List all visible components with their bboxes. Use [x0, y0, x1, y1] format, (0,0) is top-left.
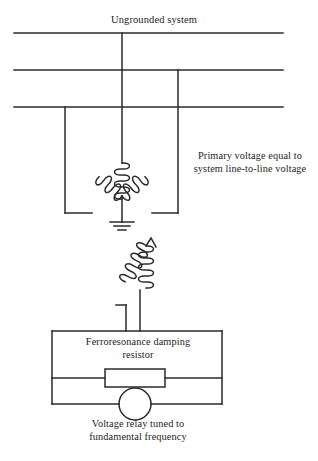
damping-resistor-body [105, 369, 165, 387]
secondary-coil-left [118, 241, 151, 285]
schematic-drawing [0, 0, 318, 461]
primary-voltage-label: Primary voltage equal to system line-to-… [186, 150, 314, 175]
diagram-canvas: Ungrounded system Primary voltage equal … [0, 0, 318, 461]
title-label: Ungrounded system [59, 14, 249, 27]
damping-resistor-label: Ferroresonance damping resistor [54, 336, 222, 361]
voltage-relay-label: Voltage relay tuned to fundamental frequ… [56, 418, 220, 443]
